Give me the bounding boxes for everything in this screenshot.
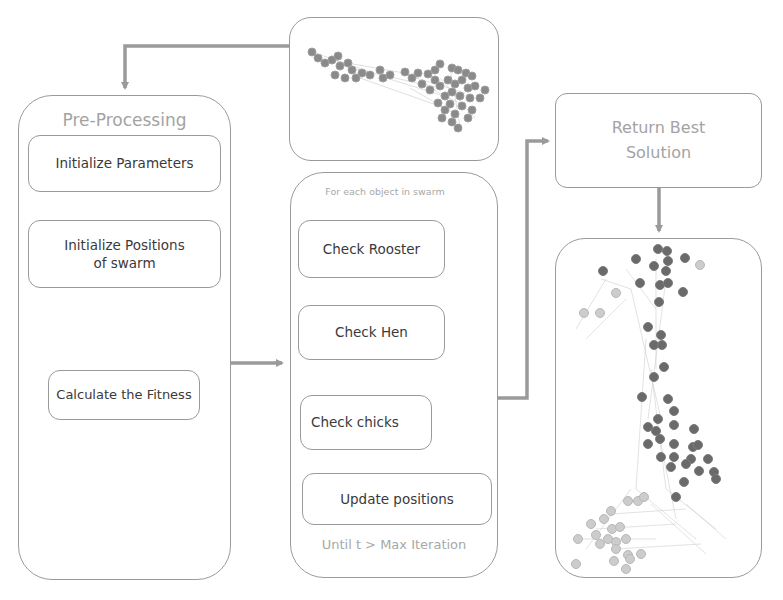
step-check-rooster[interactable]: Check Rooster [298,220,445,278]
loop-footer: Until t > Max Iteration [291,537,497,552]
best-solution-graph [556,239,760,576]
step-check-hen[interactable]: Check Hen [298,305,445,360]
preprocessing-title: Pre-Processing [19,110,230,130]
initial-swarm-panel [289,17,499,161]
return-best-solution[interactable]: Return Best Solution [555,93,762,188]
best-solution-panel [555,238,762,578]
step-initialize-parameters[interactable]: Initialize Parameters [28,135,221,192]
step-initialize-positions[interactable]: Initialize Positions of swarm [28,220,221,288]
step-update-positions[interactable]: Update positions [302,473,492,525]
step-check-chicks[interactable]: Check chicks [300,395,432,450]
loop-header: For each object in swarm [291,186,479,197]
initial-swarm-graph [290,18,497,159]
step-calculate-fitness[interactable]: Calculate the Fitness [48,370,200,420]
